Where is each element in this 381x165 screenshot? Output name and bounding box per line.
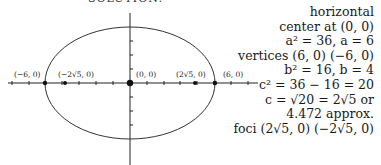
ellipse-graph: (−6, 0) (−2√5, 0) (0, 0) (2√5, 0) (6, 0) xyxy=(0,0,260,165)
solution-text: horizontal center at (0, 0) a² = 36, a =… xyxy=(233,5,374,136)
left-vertex-point xyxy=(43,81,47,85)
solution-line: b² = 16, b = 4 xyxy=(233,63,374,78)
right-vertex-point xyxy=(213,81,217,85)
solution-line: foci (2√5, 0) (−2√5, 0) xyxy=(233,122,374,137)
solution-line: 4.472 approx. xyxy=(233,107,374,122)
left-focus-point xyxy=(63,81,67,85)
right-focus-point xyxy=(193,81,197,85)
center-point xyxy=(127,80,133,86)
left-vertex-label: (−6, 0) xyxy=(14,70,41,79)
solution-line: horizontal xyxy=(233,5,374,20)
right-focus-label: (2√5, 0) xyxy=(176,70,206,79)
solution-line: a² = 36, a = 6 xyxy=(233,34,374,49)
solution-line: c² = 36 − 16 = 20 xyxy=(233,78,374,93)
center-label: (0, 0) xyxy=(136,70,156,79)
solution-line: center at (0, 0) xyxy=(233,20,374,35)
left-focus-label: (−2√5, 0) xyxy=(58,70,94,79)
solution-line: vertices (6, 0) (−6, 0) xyxy=(233,49,374,64)
solution-line: c = √20 = 2√5 or xyxy=(233,93,374,108)
